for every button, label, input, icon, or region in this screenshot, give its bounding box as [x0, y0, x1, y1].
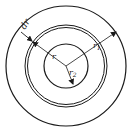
label-dr: dr: [18, 17, 32, 31]
label-r2: r2: [69, 68, 77, 78]
label-r1-sub: 1: [97, 44, 101, 51]
concentric-circles-diagram: dr r r1 r2: [0, 0, 133, 133]
dr-arrow-line: [21, 32, 32, 41]
label-r2-sub: 2: [72, 71, 77, 78]
label-r: r: [52, 52, 57, 61]
radius-r-line: [33, 42, 66, 66]
